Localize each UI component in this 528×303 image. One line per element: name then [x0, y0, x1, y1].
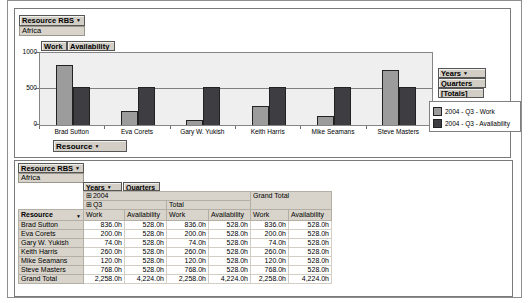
pivot-corner [19, 201, 84, 210]
y-axis-tick-label: 0 [15, 120, 37, 128]
table-rbs-field-button[interactable]: Resource RBS▼ [18, 163, 84, 173]
legend-swatch-icon [433, 107, 442, 116]
availability-column-header: Availability [209, 210, 251, 221]
value-cell: 528.0h [289, 248, 332, 257]
bar [138, 87, 155, 125]
total-group-header: Total [167, 201, 251, 210]
chart-legend: 2004 - Q3 - Work2004 - Q3 - Availability [429, 101, 521, 132]
resource-name-cell: Brad Sutton [19, 221, 84, 230]
table-row: Brad Sutton836.0h528.0h836.0h528.0h836.0… [19, 221, 332, 230]
table-row: Eva Corets200.0h528.0h200.0h528.0h200.0h… [19, 230, 332, 239]
table-row: Gary W. Yukish74.0h528.0h74.0h528.0h74.0… [19, 239, 332, 248]
value-cell: 2,258.0h [251, 275, 289, 284]
legend-label: 2004 - Q3 - Work [445, 108, 495, 115]
x-axis-tick [170, 126, 171, 129]
value-cell: 74.0h [167, 239, 209, 248]
value-cell: 200.0h [167, 230, 209, 239]
pivot-table-panel: Resource RBS▼ Africa Years▼ Quarters ⊞20… [14, 160, 513, 297]
dropdown-arrow-icon: ▼ [463, 70, 468, 76]
bar [252, 106, 269, 125]
bar [186, 120, 203, 125]
bar [317, 116, 334, 125]
bar-group [301, 53, 366, 125]
expand-icon[interactable]: ⊞ [86, 192, 92, 199]
value-cell: 4,224.0h [209, 275, 251, 284]
pivot-view: Resource RBS▼ Africa Work Availability 0… [0, 0, 528, 303]
bar [269, 87, 286, 125]
work-field-button[interactable]: Work [41, 41, 67, 51]
value-cell: 120.0h [167, 257, 209, 266]
value-cell: 120.0h [251, 257, 289, 266]
resource-field-button[interactable]: Resource▼ [53, 140, 127, 152]
x-axis-label: Brad Sutton [39, 128, 104, 136]
resource-name-cell: Mike Seamans [19, 257, 84, 266]
resource-row-header[interactable]: ▼Resource [19, 210, 84, 221]
x-axis-label: Eva Corets [104, 128, 169, 136]
quarter-group-header[interactable]: ⊞Q3 [84, 201, 167, 210]
legend-entry: 2004 - Q3 - Availability [433, 117, 517, 129]
chart-rbs-field-button[interactable]: Resource RBS▼ [19, 15, 85, 26]
bar [382, 70, 399, 125]
expand-icon[interactable]: ⊞ [86, 201, 92, 208]
dropdown-arrow-icon: ▼ [75, 165, 80, 171]
bar-group [171, 53, 236, 125]
value-cell: 200.0h [251, 230, 289, 239]
bar [56, 65, 73, 125]
legend-label: 2004 - Q3 - Availability [445, 120, 510, 127]
value-cell: 528.0h [209, 239, 251, 248]
bar [399, 87, 416, 125]
value-cell: 768.0h [84, 266, 125, 275]
value-cell: 74.0h [251, 239, 289, 248]
x-axis-label: Keith Harris [235, 128, 300, 136]
totals-field-button[interactable]: [Totals] [438, 88, 484, 98]
value-cell: 836.0h [251, 221, 289, 230]
value-cell: 2,258.0h [84, 275, 125, 284]
value-cell: 260.0h [84, 248, 125, 257]
quarters-field-button[interactable]: Quarters [438, 78, 486, 88]
value-cell: 4,224.0h [125, 275, 167, 284]
availability-column-header: Availability [125, 210, 167, 221]
value-cell: 120.0h [84, 257, 125, 266]
year-group-header[interactable]: ⊞2004 [84, 192, 251, 201]
table-quarters-field-button[interactable]: Quarters [123, 182, 160, 191]
value-cell: 528.0h [125, 266, 167, 275]
work-column-header: Work [167, 210, 209, 221]
legend-entry: 2004 - Q3 - Work [433, 105, 517, 117]
value-cell: 528.0h [289, 221, 332, 230]
chart-panel: Resource RBS▼ Africa Work Availability 0… [14, 8, 511, 158]
value-cell: 836.0h [84, 221, 125, 230]
years-field-button[interactable]: Years▼ [438, 68, 486, 78]
x-axis-label: Gary W. Yukish [170, 128, 235, 136]
x-axis-label: Steve Masters [366, 128, 431, 136]
chart-rbs-filter-value: Africa [19, 26, 85, 36]
value-cell: 528.0h [125, 230, 167, 239]
value-cell: 528.0h [209, 257, 251, 266]
value-cell: 528.0h [289, 239, 332, 248]
table-row: Keith Harris260.0h528.0h260.0h528.0h260.… [19, 248, 332, 257]
x-axis-tick [104, 126, 105, 129]
y-axis-tick-label: 500 [15, 84, 37, 92]
value-cell: 836.0h [167, 221, 209, 230]
resource-name-cell: Steve Masters [19, 266, 84, 275]
value-cell: 260.0h [167, 248, 209, 257]
legend-swatch-icon [433, 119, 442, 128]
bar-group [236, 53, 301, 125]
bar [121, 111, 138, 125]
value-cell: 260.0h [251, 248, 289, 257]
table-years-field-button[interactable]: Years▼ [83, 182, 122, 191]
work-column-header: Work [251, 210, 289, 221]
x-axis-tick [300, 126, 301, 129]
dropdown-arrow-icon: ▼ [76, 17, 81, 23]
table-rbs-filter-value: Africa [18, 173, 84, 183]
value-cell: 528.0h [125, 248, 167, 257]
x-axis-tick [366, 126, 367, 129]
value-cell: 528.0h [209, 248, 251, 257]
value-cell: 528.0h [209, 221, 251, 230]
resource-name-cell: Eva Corets [19, 230, 84, 239]
value-cell: 74.0h [84, 239, 125, 248]
value-cell: 528.0h [289, 266, 332, 275]
work-column-header: Work [84, 210, 125, 221]
dropdown-arrow-icon: ▼ [107, 184, 112, 190]
value-cell: 528.0h [125, 221, 167, 230]
availability-field-button[interactable]: Availability [67, 41, 115, 51]
